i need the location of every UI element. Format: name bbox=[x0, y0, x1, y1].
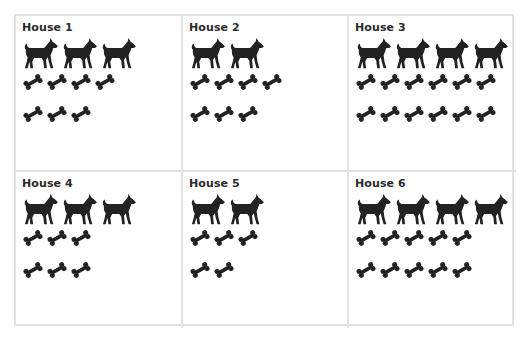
bone-row bbox=[189, 105, 341, 137]
dog-icon bbox=[472, 37, 511, 70]
bone-icon bbox=[213, 229, 237, 247]
dog-icons bbox=[189, 37, 349, 70]
bone-icon bbox=[22, 73, 46, 91]
bone-icon bbox=[451, 73, 475, 91]
dog-icon bbox=[228, 37, 267, 70]
bone-icon bbox=[213, 73, 237, 91]
bone-icon bbox=[237, 73, 261, 91]
bone-icons bbox=[355, 229, 510, 293]
dog-icons bbox=[22, 193, 182, 226]
bone-icons bbox=[355, 73, 510, 137]
dog-icons bbox=[22, 37, 182, 70]
dog-icons bbox=[189, 193, 349, 226]
bone-row bbox=[22, 73, 175, 105]
dog-icon bbox=[355, 37, 394, 70]
bone-icons bbox=[22, 229, 175, 293]
dog-icon bbox=[355, 193, 394, 226]
dog-icon bbox=[22, 37, 61, 70]
dog-icon bbox=[22, 193, 61, 226]
bone-icon bbox=[451, 105, 475, 123]
bone-row bbox=[189, 229, 341, 261]
bone-row bbox=[189, 261, 341, 293]
bone-row bbox=[355, 229, 510, 261]
bone-icons bbox=[189, 73, 341, 137]
house-cell: House 5 bbox=[183, 172, 349, 328]
bone-icon bbox=[379, 73, 403, 91]
dog-icon bbox=[433, 37, 472, 70]
bone-row bbox=[355, 73, 510, 105]
house-title: House 6 bbox=[355, 177, 510, 193]
dog-icon bbox=[100, 37, 139, 70]
bone-icon bbox=[475, 73, 499, 91]
dog-icons bbox=[355, 37, 515, 70]
bone-row bbox=[355, 105, 510, 137]
house-title: House 5 bbox=[189, 177, 341, 193]
house-pictograph-grid: House 1 bbox=[14, 14, 514, 326]
dog-icon bbox=[189, 37, 228, 70]
house-title: House 2 bbox=[189, 21, 341, 37]
bone-icon bbox=[22, 105, 46, 123]
bone-icon bbox=[22, 261, 46, 279]
bone-icon bbox=[70, 105, 94, 123]
dog-icons bbox=[355, 193, 515, 226]
bone-icon bbox=[379, 105, 403, 123]
bone-icon bbox=[237, 229, 261, 247]
bone-icon bbox=[355, 105, 379, 123]
house-cell: House 6 bbox=[349, 172, 516, 328]
bone-icon bbox=[451, 261, 475, 279]
house-cell: House 1 bbox=[16, 16, 183, 172]
house-cell: House 4 bbox=[16, 172, 183, 328]
bone-icon bbox=[427, 261, 451, 279]
bone-icon bbox=[70, 261, 94, 279]
dog-icon bbox=[472, 193, 511, 226]
bone-icon bbox=[261, 73, 285, 91]
bone-icon bbox=[379, 261, 403, 279]
bone-icon bbox=[213, 105, 237, 123]
bone-row bbox=[189, 73, 341, 105]
bone-icon bbox=[46, 105, 70, 123]
dog-icon bbox=[61, 193, 100, 226]
bone-row bbox=[22, 261, 175, 293]
house-title: House 3 bbox=[355, 21, 510, 37]
dog-icon bbox=[100, 193, 139, 226]
bone-icon bbox=[46, 261, 70, 279]
dog-icon bbox=[228, 193, 267, 226]
bone-icon bbox=[22, 229, 46, 247]
bone-row bbox=[22, 105, 175, 137]
house-cell: House 3 bbox=[349, 16, 516, 172]
house-cell: House 2 bbox=[183, 16, 349, 172]
house-title: House 1 bbox=[22, 21, 175, 37]
bone-icons bbox=[22, 73, 175, 137]
bone-icon bbox=[70, 229, 94, 247]
bone-icon bbox=[403, 261, 427, 279]
bone-icon bbox=[403, 73, 427, 91]
bone-icon bbox=[237, 105, 261, 123]
bone-icon bbox=[70, 73, 94, 91]
dog-icon bbox=[394, 37, 433, 70]
bone-icon bbox=[427, 73, 451, 91]
bone-icon bbox=[475, 105, 499, 123]
bone-icon bbox=[403, 229, 427, 247]
dog-icon bbox=[189, 193, 228, 226]
bone-icon bbox=[213, 261, 237, 279]
bone-icon bbox=[451, 229, 475, 247]
bone-icon bbox=[427, 229, 451, 247]
bone-icon bbox=[355, 229, 379, 247]
bone-icon bbox=[427, 105, 451, 123]
bone-icon bbox=[189, 73, 213, 91]
bone-row bbox=[22, 229, 175, 261]
bone-icon bbox=[403, 105, 427, 123]
bone-icon bbox=[189, 261, 213, 279]
bone-icon bbox=[189, 229, 213, 247]
bone-icons bbox=[189, 229, 341, 293]
house-title: House 4 bbox=[22, 177, 175, 193]
bone-icon bbox=[379, 229, 403, 247]
bone-icon bbox=[94, 73, 118, 91]
dog-icon bbox=[394, 193, 433, 226]
bone-icon bbox=[355, 73, 379, 91]
bone-icon bbox=[355, 261, 379, 279]
bone-icon bbox=[46, 73, 70, 91]
bone-row bbox=[355, 261, 510, 293]
dog-icon bbox=[433, 193, 472, 226]
dog-icon bbox=[61, 37, 100, 70]
